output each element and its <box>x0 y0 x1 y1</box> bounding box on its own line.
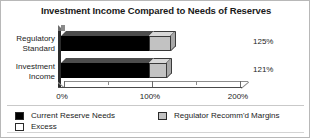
bar-segment-margins <box>149 36 171 51</box>
xtick-label-100: 100% <box>130 92 170 101</box>
xtick-200 <box>240 81 241 87</box>
legend-label-regulator-margins: Regulator Recomm'd Margins <box>174 111 280 120</box>
xtick-50 <box>108 81 109 85</box>
legend-swatch-gray <box>158 112 167 120</box>
bar-segment-reserve-needs <box>61 36 149 51</box>
legend-swatch-black <box>15 112 24 120</box>
bar-segment-margins-side <box>167 58 172 78</box>
category-label-line2: Income <box>3 72 55 82</box>
chart-title: Investment Income Compared to Needs of R… <box>1 5 310 16</box>
legend-label-current-reserve-needs: Current Reserve Needs <box>31 111 115 120</box>
value-label-regulatory-standard: 125% <box>253 37 293 46</box>
axis-line-x <box>58 87 242 88</box>
bottom-separator <box>7 132 304 133</box>
legend-swatch-white <box>15 123 24 131</box>
bar-segment-margins-side <box>171 31 176 51</box>
xtick-0 <box>64 81 65 87</box>
category-label-line1: Investment <box>3 62 55 72</box>
xtick-100 <box>152 81 153 87</box>
axis-floor-right-edge <box>241 81 249 89</box>
xtick-label-0: 0% <box>42 92 82 101</box>
category-label-investment-income: Investment Income <box>3 62 55 81</box>
plot-area <box>58 25 242 87</box>
category-label-regulatory-standard: Regulatory Standard <box>3 34 55 53</box>
xtick-150 <box>196 81 197 85</box>
bar-segment-margins <box>149 63 167 78</box>
chart-container: Investment Income Compared to Needs of R… <box>0 0 310 138</box>
legend-separator <box>7 105 304 106</box>
xtick-label-200: 200% <box>218 92 258 101</box>
category-label-line2: Standard <box>3 44 55 54</box>
legend-label-excess: Excess <box>31 122 57 131</box>
axis-floor-back-edge <box>64 81 248 82</box>
value-label-investment-income: 121% <box>253 65 293 74</box>
bar-segment-reserve-needs <box>61 63 149 78</box>
axis-wall-cap <box>61 25 65 31</box>
category-label-line1: Regulatory <box>3 34 55 44</box>
